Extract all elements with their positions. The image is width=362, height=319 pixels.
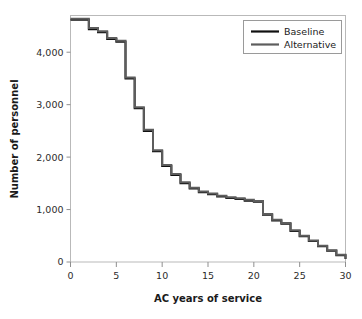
- chart-legend: Baseline Alternative: [244, 21, 342, 54]
- y-tick-label: 0: [57, 256, 63, 267]
- y-tick-label: 2,000: [36, 152, 63, 163]
- x-tick-label: 30: [339, 270, 351, 281]
- y-axis-title: Number of personnel: [9, 79, 20, 198]
- x-axis-title: AC years of service: [154, 293, 262, 304]
- step-chart-svg: 01,0002,0003,0004,000 051015202530 Numbe…: [0, 0, 362, 319]
- x-tick-label: 0: [67, 270, 73, 281]
- x-tick-label: 15: [202, 270, 214, 281]
- y-tick-label: 1,000: [36, 204, 63, 215]
- y-tick-label: 4,000: [36, 47, 63, 58]
- chart-figure: 01,0002,0003,0004,000 051015202530 Numbe…: [0, 0, 362, 319]
- legend-label-alternative: Alternative: [284, 39, 336, 50]
- x-tick-label: 10: [156, 270, 168, 281]
- x-tick-label: 5: [113, 270, 119, 281]
- x-tick-label: 25: [294, 270, 306, 281]
- legend-label-baseline: Baseline: [284, 26, 324, 37]
- x-tick-label: 20: [248, 270, 260, 281]
- y-tick-label: 3,000: [36, 99, 63, 110]
